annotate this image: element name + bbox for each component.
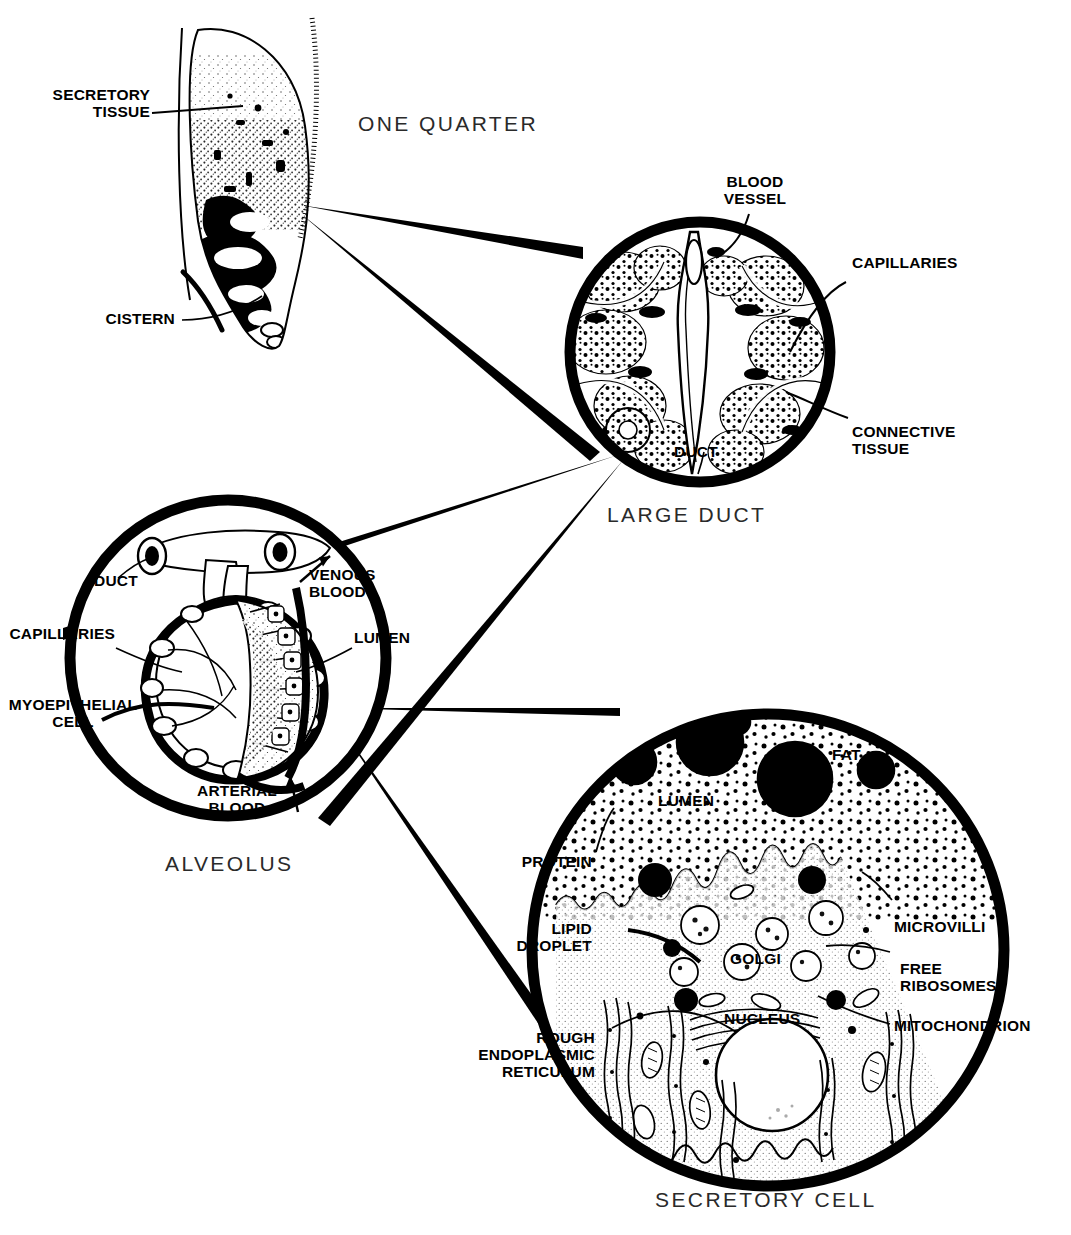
caption-one-quarter: ONE QUARTER (358, 112, 538, 136)
label-lumen-cell: LUMEN (658, 792, 714, 809)
caption-large-duct: LARGE DUCT (607, 503, 766, 527)
label-capillaries: CAPILLARIES (852, 254, 958, 271)
label-protein: PROTEIN (472, 853, 592, 870)
label-fat: FAT (832, 746, 861, 763)
label-duct-large: DUCT (674, 443, 718, 460)
label-secretory-tissue: SECRETORY TISSUE (20, 86, 150, 120)
label-rough-er: ROUGH ENDOPLASMIC RETICULUM (420, 1029, 595, 1080)
label-free-ribosomes: FREE RIBOSOMES (900, 960, 997, 994)
label-mitochondrion: MITOCHONDRION (894, 1017, 1031, 1034)
label-myoepithelial-cell: MYOEPITHELIAL CELL (8, 696, 138, 730)
label-arterial-blood: ARTERIAL BLOOD (177, 782, 297, 816)
panel-one-quarter-illustration (152, 18, 330, 365)
label-venous-blood: VENOUS BLOOD (309, 566, 376, 600)
label-lumen-alveolus: LUMEN (354, 629, 410, 646)
label-lipid-droplet: LIPID DROPLET (472, 920, 592, 954)
caption-secretory-cell: SECRETORY CELL (655, 1188, 877, 1212)
label-microvilli: MICROVILLI (894, 918, 986, 935)
label-cistern: CISTERN (20, 310, 175, 327)
caption-alveolus: ALVEOLUS (165, 852, 294, 876)
label-golgi: GOLGI (730, 950, 781, 967)
label-duct-alveolus: DUCT (94, 572, 138, 589)
label-blood-vessel: BLOOD VESSEL (700, 173, 810, 207)
label-nucleus: NUCLEUS (724, 1010, 800, 1027)
label-connective-tissue: CONNECTIVE TISSUE (852, 423, 956, 457)
figure-canvas: SECRETORY TISSUE CISTERN ONE QUARTER BLO… (0, 0, 1071, 1235)
label-capillaries-alveolus: CAPILLARIES (0, 625, 115, 642)
